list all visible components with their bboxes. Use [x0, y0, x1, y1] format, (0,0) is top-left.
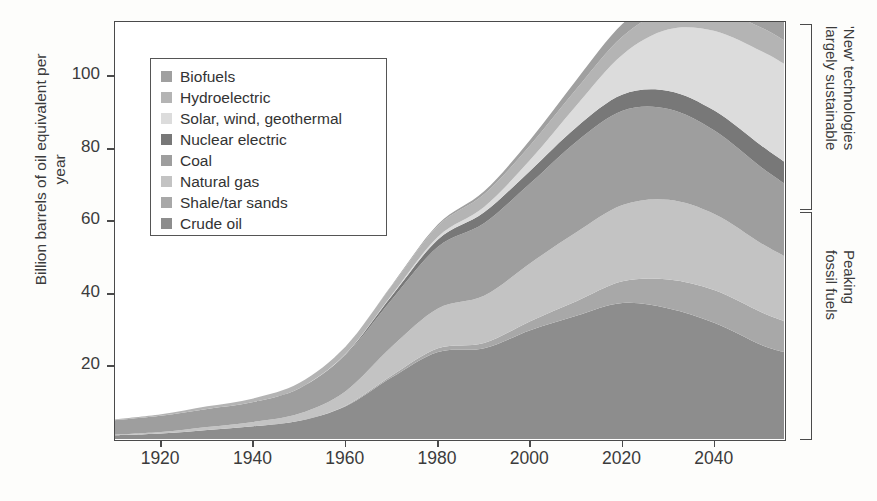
y-tick-label: 100 [0, 64, 100, 84]
y-tick-label: 80 [0, 137, 100, 157]
legend-swatch-icon [161, 197, 172, 208]
legend-swatch-icon [161, 71, 172, 82]
legend-item-label: Biofuels [180, 69, 235, 85]
legend-swatch-icon [161, 134, 172, 145]
legend-item-label: Shale/tar sands [180, 195, 288, 211]
legend-swatch-icon [161, 176, 172, 187]
legend-swatch-icon [161, 92, 172, 103]
legend-item-label: Natural gas [180, 174, 259, 190]
legend-item-label: Coal [180, 153, 212, 169]
legend-item: Biofuels [161, 66, 386, 87]
legend-item: Solar, wind, geothermal [161, 108, 386, 129]
legend-item: Hydroelectric [161, 87, 386, 108]
legend-item: Coal [161, 150, 386, 171]
y-tick-label: 60 [0, 209, 100, 229]
legend-item-label: Nuclear electric [180, 132, 287, 148]
y-tick-mark [107, 75, 114, 77]
annotation-new-technologies-label: 'New' technologies largely sustainable [822, 26, 858, 206]
x-tick-label: 1920 [125, 448, 195, 469]
y-tick-mark [107, 365, 114, 367]
legend-item: Natural gas [161, 171, 386, 192]
y-tick-label: 20 [0, 354, 100, 374]
legend-item: Nuclear electric [161, 129, 386, 150]
x-tick-label: 1940 [217, 448, 287, 469]
legend-swatch-icon [161, 113, 172, 124]
legend-item-label: Hydroelectric [180, 90, 270, 106]
legend-item: Shale/tar sands [161, 192, 386, 213]
y-tick-mark [107, 148, 114, 150]
y-tick-mark [107, 220, 114, 222]
x-tick-label: 2000 [494, 448, 564, 469]
x-tick-label: 2040 [679, 448, 749, 469]
legend-item-label: Crude oil [180, 216, 242, 232]
y-tick-label: 40 [0, 282, 100, 302]
annotation-peaking-fossil-fuels-label: Peaking fossil fuels [822, 250, 858, 410]
legend-item: Crude oil [161, 213, 386, 234]
y-tick-mark [107, 293, 114, 295]
legend-item-label: Solar, wind, geothermal [180, 111, 342, 127]
legend: BiofuelsHydroelectricSolar, wind, geothe… [150, 58, 387, 236]
legend-swatch-icon [161, 218, 172, 229]
chart-figure: Billion barrels of oil equivalent per ye… [0, 0, 877, 501]
x-tick-label: 1960 [310, 448, 380, 469]
legend-swatch-icon [161, 155, 172, 166]
x-tick-label: 1980 [402, 448, 472, 469]
x-tick-label: 2020 [587, 448, 657, 469]
